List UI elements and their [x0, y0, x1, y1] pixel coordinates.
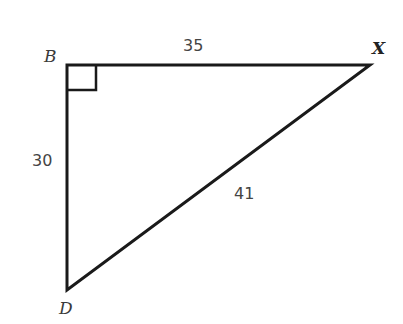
- right-angle-marker: [67, 65, 96, 90]
- side-length-bd: 30: [32, 151, 52, 170]
- triangle-bxd: [67, 65, 370, 290]
- side-length-bx: 35: [183, 36, 203, 55]
- triangle-diagram: B X D 35 30 41: [0, 0, 403, 324]
- vertex-label-x: X: [371, 38, 386, 58]
- vertex-label-b: B: [43, 46, 57, 66]
- side-length-dx: 41: [234, 184, 254, 203]
- vertex-label-d: D: [58, 298, 73, 318]
